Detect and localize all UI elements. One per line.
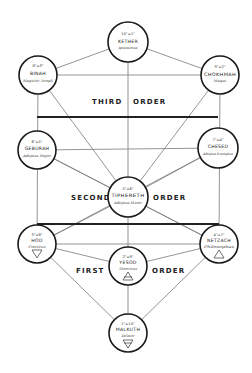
node-chesed: 7°=4° CHESED Adeptus Exemptus <box>198 128 238 168</box>
binah-title: Magister Templi <box>22 79 53 83</box>
first-order-label-right: ORDER <box>152 267 185 275</box>
netzach-grade: 4°=7° <box>213 233 224 237</box>
chesed-name: CHESED <box>208 144 229 149</box>
binah-name: BINAH <box>30 71 46 76</box>
yesod-title: Theoricus <box>119 267 137 271</box>
node-geburah: 6°=5° GEBURAH Adeptus Major <box>18 131 56 169</box>
netzach-title: Philosophus <box>203 245 235 249</box>
kether-name: KETHER <box>118 39 139 44</box>
yesod-name: YESOD <box>118 260 136 265</box>
chesed-grade: 7°=4° <box>212 138 223 142</box>
tiphereth-title: Adeptus Minor <box>113 201 142 205</box>
malkuth-name: MALKUTH <box>116 327 140 332</box>
malkuth-grade: 1°=10° <box>121 322 135 326</box>
node-tiphereth: 5°=6° TIPHERETH Adeptus Minor <box>108 177 148 217</box>
malkuth-title: Zelator <box>120 334 135 338</box>
third-order-label-left: THIRD <box>92 98 122 106</box>
geburah-name: GEBURAH <box>25 146 50 151</box>
geburah-title: Adeptus Major <box>22 154 51 158</box>
kether-title: Ipsissimus <box>117 46 137 50</box>
third-order-label-right: ORDER <box>133 98 166 106</box>
node-malkuth: 1°=10° MALKUTH Zelator <box>109 314 147 352</box>
tiphereth-grade: 5°=6° <box>122 187 133 191</box>
binah-grade: 8°=3° <box>32 64 43 68</box>
tree-of-life-diagram: THIRD ORDER SECOND ORDER FIRST ORDER 10°… <box>0 0 252 373</box>
kether-grade: 10°=1° <box>121 32 135 36</box>
yesod-grade: 2°=9° <box>122 255 133 259</box>
hod-grade: 3°=8° <box>31 233 42 237</box>
geburah-grade: 6°=5° <box>31 140 42 144</box>
node-binah: 8°=3° BINAH Magister Templi <box>19 56 57 94</box>
node-netzach: 4°=7° NETZACH Philosophus <box>200 225 238 263</box>
node-hod: 3°=8° HOD Practicus <box>18 225 56 263</box>
first-order-label-left: FIRST <box>76 267 105 275</box>
tiphereth-name: TIPHERETH <box>110 193 144 198</box>
node-chokhmah: 9°=2° CHOKHMAH Magus <box>201 56 239 94</box>
chokhmah-title: Magus <box>213 79 226 83</box>
chokhmah-grade: 9°=2° <box>214 65 225 69</box>
node-yesod: 2°=9° YESOD Theoricus <box>109 247 147 285</box>
chokhmah-name: CHOKHMAH <box>204 72 236 77</box>
netzach-name: NETZACH <box>207 238 231 243</box>
second-order-label-right: ORDER <box>153 194 186 202</box>
second-order-label-left: SECOND <box>71 194 111 202</box>
chesed-title: Adeptus Exemptus <box>202 152 233 156</box>
hod-title: Practicus <box>27 245 45 249</box>
node-kether: 10°=1° KETHER Ipsissimus <box>108 22 148 62</box>
hod-name: HOD <box>31 238 43 243</box>
